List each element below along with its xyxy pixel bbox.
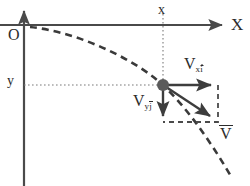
projectile-particle [157,79,169,91]
vy-component-label: Vyj [133,93,152,111]
vx-base: V [184,55,196,72]
x-axis-label: X [231,16,243,33]
j-hat-icon: j [149,102,152,111]
i-hat-icon: i [200,65,203,74]
trajectory-curve [30,27,232,178]
resultant-velocity-label: V [220,126,232,142]
vy-base: V [133,92,145,109]
diagram-canvas [0,0,250,186]
vx-component-label: Vxi [184,56,203,74]
v-overbar-icon: V [220,126,232,142]
y-coordinate-label: y [7,74,14,88]
x-coordinate-label: x [158,3,165,17]
projectile-velocity-diagram: X O x y Vxi Vyj V [0,0,250,186]
origin-label: O [8,27,20,43]
